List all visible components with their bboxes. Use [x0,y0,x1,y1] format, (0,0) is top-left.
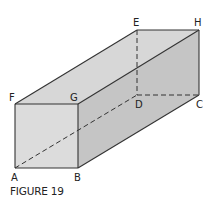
label-h: H [194,17,202,28]
label-d: D [135,99,143,110]
label-g: G [70,92,78,103]
label-e: E [133,17,139,28]
prism-diagram: E H F G D C A B FIGURE 19 [0,0,217,206]
figure-caption: FIGURE 19 [10,185,64,197]
front-face [15,104,78,168]
label-a: A [11,172,18,183]
label-c: C [196,99,203,110]
label-f: F [9,92,15,103]
label-b: B [74,172,81,183]
